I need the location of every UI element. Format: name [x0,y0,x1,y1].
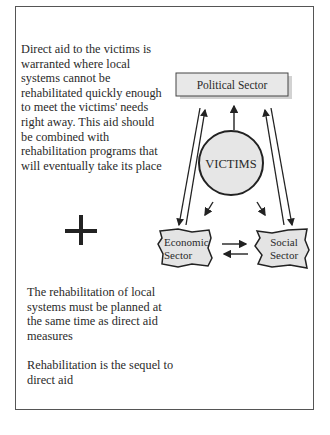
victims-to-economic-arrow [205,202,213,215]
economic-label-line1: Economic [164,236,209,248]
victims-node: VICTIMS [199,131,263,195]
victims-to-social-arrow [257,202,265,215]
political-sector-node: Political Sector [176,73,292,99]
economic-label-line2: Sector [164,249,192,261]
political-sector-label: Political Sector [197,79,268,91]
victims-label: VICTIMS [205,157,256,171]
social-sector-node: Social Sector [255,229,309,268]
economic-sector-node: Economic Sector [158,229,212,267]
social-label-line2: Sector [270,249,298,261]
social-label-line1: Social [270,236,298,248]
sector-diagram: Political Sector VICTIMS Economic Sector… [0,0,330,435]
